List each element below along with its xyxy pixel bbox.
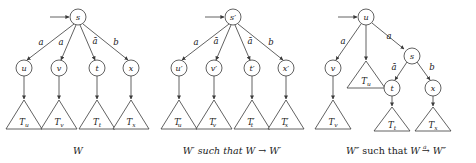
edge-s-x: [83, 24, 128, 60]
caption-w: W: [73, 145, 84, 156]
node-v-label: v: [57, 64, 62, 73]
edge-label-sp-tp: ā: [247, 36, 252, 46]
node-u-root-label: u: [363, 13, 368, 22]
node-x-3-label: x: [431, 84, 436, 93]
edge-s-u: [27, 24, 74, 60]
edge-s-x-3: [417, 62, 430, 80]
edge-label-s-x-3: b: [429, 62, 434, 72]
node-x-label: x: [129, 64, 134, 73]
edge-sp-xp: [238, 24, 283, 60]
edge-label-u-s: a: [386, 31, 391, 41]
edge-label-s-t: ā: [92, 36, 97, 46]
caption-w-prime: W′ such that W → W′: [183, 145, 282, 156]
edge-label-s-v: a: [58, 37, 63, 47]
edge-sp-up: [182, 24, 229, 60]
panel-w: s a a ā b u v t x Tu Tv Tt Tx: [6, 9, 149, 156]
caption-w-double-prime: W″ such that W a→ W″: [346, 143, 446, 156]
edge-label-s-x: b: [113, 37, 118, 47]
tree-rewriting-figure: s a a ā b u v t x Tu Tv Tt Tx: [0, 0, 476, 163]
edge-label-s-t-3: ā: [391, 62, 396, 72]
edge-label-sp-up: a: [193, 37, 198, 47]
node-v-3-label: v: [331, 64, 336, 73]
panel-w-prime: s′ a ā ā b u′ v′ t′ x′ T′u T′v T′t T′x W…: [161, 9, 304, 156]
node-x-prime-label: x′: [283, 64, 290, 73]
subtree-label-Tt-prime: T′t: [247, 117, 255, 128]
subtree-label-Tu-prime: T′u: [174, 117, 182, 128]
node-u-prime-label: u′: [176, 64, 183, 73]
edge-label-u-v: a: [340, 36, 345, 46]
panel-w-double-prime: u a a v Tv Tu s ā b t x: [315, 9, 451, 156]
subtree-label-Tv-prime: T′v: [209, 117, 217, 128]
node-s-label: s: [76, 13, 80, 22]
edge-label-s-u: a: [38, 37, 43, 47]
node-u-label: u: [21, 64, 26, 73]
edge-label-sp-vp: ā: [213, 36, 218, 46]
edge-label-sp-xp: b: [268, 37, 273, 47]
node-s-prime-label: s′: [230, 13, 236, 22]
node-s-3-label: s: [410, 52, 414, 61]
subtree-label-Tx-prime: T′x: [281, 117, 289, 128]
edge-s-t-3: [395, 62, 407, 80]
node-v-prime-label: v′: [211, 64, 218, 73]
node-t-prime-label: t′: [249, 64, 254, 73]
